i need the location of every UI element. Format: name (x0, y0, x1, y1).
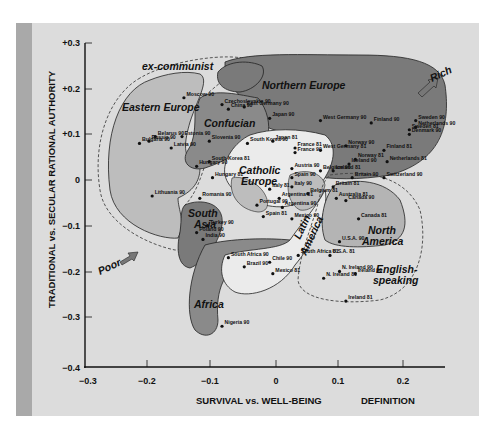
data-point (262, 215, 265, 218)
data-point-label: Mexico 81 (275, 267, 300, 273)
x-ticks (147, 360, 403, 367)
data-point (268, 261, 271, 264)
y-ticks (85, 43, 92, 317)
data-point (180, 135, 183, 138)
data-point (246, 142, 249, 145)
data-point (151, 194, 154, 197)
data-point-label: Japan 90 (272, 111, 294, 117)
data-point (170, 146, 173, 149)
data-point (211, 176, 214, 179)
data-point (332, 185, 335, 188)
data-point-label: Netherlands 90 (418, 120, 455, 126)
x-tick-label: 0.1 (332, 376, 345, 386)
data-point-label: Nigeria 90 (225, 319, 250, 325)
poor-arrow-icon (120, 252, 138, 265)
data-point (208, 140, 211, 143)
data-point-label: N. Ireland 81 (326, 271, 357, 277)
data-point-label: Ireland 81 (348, 294, 372, 300)
data-point (271, 272, 274, 275)
data-point-label: Italy 81 (272, 182, 290, 188)
data-point-label: U.S.A. 90 (342, 235, 365, 241)
data-point (227, 256, 230, 259)
y-tick-label: −0.3 (62, 312, 80, 322)
label-northern-europe: Northern Europe (262, 79, 346, 91)
data-point (293, 146, 296, 149)
data-point-label: Netherlands 81 (390, 155, 427, 161)
x-tick-label: −0.1 (201, 376, 219, 386)
data-point-label: Argentina 90 (285, 200, 317, 206)
data-point-label: Romania 90 (202, 191, 231, 197)
y-axis-title: TRADITIONAL vs. SECULAR RATIONAL AUTHORI… (46, 70, 57, 308)
data-point-label: Canada 90 (348, 194, 374, 200)
data-point-label: South Africa 90 (231, 251, 269, 257)
data-point (382, 149, 385, 152)
label-confucian: Confucian (204, 117, 255, 129)
x-tick-label: −0.2 (138, 376, 156, 386)
data-point (290, 185, 293, 188)
data-point-label: France 90 (298, 146, 322, 152)
data-point-label: South Korea 90 (250, 136, 288, 142)
data-point (220, 103, 223, 106)
label-north-america-2: America (361, 235, 404, 247)
data-point (357, 217, 360, 220)
y-tick-label: +0.2 (62, 84, 80, 94)
data-point-label: Portugal 90 (259, 198, 287, 204)
data-point (255, 204, 258, 207)
data-point-label: Lithuania 90 (155, 189, 185, 195)
data-point-label: India 90 (205, 232, 224, 238)
data-point-label: East Germany 90 (247, 100, 289, 106)
y-tick-label: −0.1 (62, 221, 80, 231)
data-point-label: Spain 90 (294, 171, 315, 177)
y-tick-label: +0.3 (62, 38, 80, 48)
data-point (332, 169, 335, 172)
data-point-label: Turkey 90 (210, 219, 234, 225)
data-point (293, 151, 296, 154)
data-point (344, 144, 347, 147)
data-point-label: Ireland 90 (358, 267, 382, 273)
data-point (278, 197, 281, 200)
data-point (220, 325, 223, 328)
data-point-label: Iceland 81 (336, 164, 361, 170)
data-point-label: Finland 81 (386, 143, 412, 149)
label-ex-communist: ex-communist (142, 60, 214, 72)
x-tick-label: 0.2 (397, 376, 410, 386)
data-point-label: Chile 90 (272, 255, 292, 261)
data-point (201, 238, 204, 241)
data-point-label: Estonia 90 (185, 130, 211, 136)
data-point (335, 197, 338, 200)
data-point-label: China 90 (231, 102, 253, 108)
data-point-label: Latvia 90 (174, 141, 196, 147)
data-point-label: Denmark 90 (412, 127, 442, 133)
data-point-label: Switzerland 90 (386, 171, 422, 177)
data-point (319, 169, 322, 172)
data-point (268, 117, 271, 120)
data-point-label: Iceland 90 (352, 157, 377, 163)
y-tick-label: −0.2 (62, 267, 80, 277)
data-point (290, 167, 293, 170)
data-point-label: West Germany 90 (323, 114, 367, 120)
data-point-label: Spain 81 (266, 210, 287, 216)
data-point (408, 128, 411, 131)
y-tick-label: −0.4 (62, 363, 80, 373)
data-point-label: Hungary 81 (215, 171, 243, 177)
y-tick-label: +0.1 (62, 129, 80, 139)
data-point (243, 265, 246, 268)
data-point (344, 199, 347, 202)
data-point-label: Argentina 81 (282, 191, 314, 197)
data-point (370, 121, 373, 124)
data-point-label: Britain 81 (336, 180, 360, 186)
data-point (290, 217, 293, 220)
data-point (227, 108, 230, 111)
label-english-2: speaking (373, 274, 419, 286)
data-point-label: Bulgaria 90 (142, 136, 170, 142)
data-point-label: Canada 81 (361, 212, 387, 218)
chart-svg: +0.3 +0.2 +0.1 0 −0.1 −0.2 −0.3 −0.4 −0.… (0, 0, 498, 431)
data-point (414, 119, 417, 122)
label-africa: Africa (193, 298, 224, 310)
data-point-label: U.S.A. 81 (332, 248, 355, 254)
data-point (319, 119, 322, 122)
data-point (206, 224, 209, 227)
data-point-label: Slovenia 90 (212, 134, 241, 140)
data-point-label: Hungary 90 (199, 159, 227, 165)
data-point (195, 165, 198, 168)
